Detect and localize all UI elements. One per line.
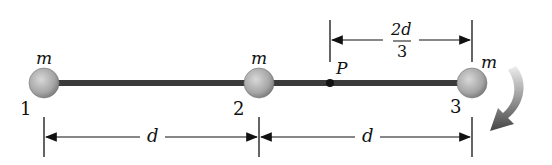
mass-1-label: m xyxy=(36,50,52,67)
mass-2 xyxy=(244,68,274,98)
point-p-label: P xyxy=(336,60,347,77)
diagram-graphics xyxy=(0,0,552,165)
clockwise-rotation-arrow xyxy=(490,66,524,131)
dimension-2d-denominator: 3 xyxy=(397,44,407,60)
mass-2-number: 2 xyxy=(233,100,244,118)
dimension-d-2-3: d xyxy=(362,127,374,145)
point-p xyxy=(326,79,334,87)
mass-1 xyxy=(29,68,59,98)
dimension-2d-numerator: 2d xyxy=(391,22,411,38)
mass-1-number: 1 xyxy=(20,100,31,118)
rigid-rod-diagram: m m m 1 2 3 P d d 2d 3 xyxy=(0,0,552,165)
mass-3-number: 3 xyxy=(450,98,461,116)
mass-3-label: m xyxy=(481,54,497,71)
dimension-d-1-2: d xyxy=(147,127,159,145)
mass-2-label: m xyxy=(251,50,267,67)
mass-3 xyxy=(457,68,487,98)
